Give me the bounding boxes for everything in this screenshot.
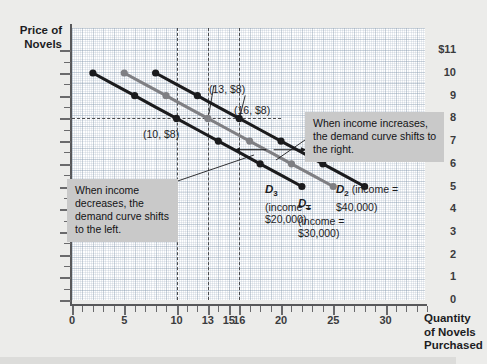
data-point bbox=[121, 69, 128, 76]
callout-income-decreases: When income decreases, the demand curve … bbox=[67, 179, 178, 242]
data-point bbox=[246, 138, 253, 145]
curve-label-d2-name: D2 bbox=[336, 183, 349, 195]
point-label-16-8: (16, $8) bbox=[234, 104, 270, 116]
data-point bbox=[204, 115, 211, 122]
data-point bbox=[173, 115, 180, 122]
callout-income-increases: When income increases, the demand curve … bbox=[305, 112, 444, 162]
curve-label-d3-name: D3 bbox=[265, 183, 278, 195]
data-point bbox=[194, 92, 201, 99]
point-label-13-8: (13, $8) bbox=[209, 83, 245, 95]
shift-right-arrow bbox=[274, 147, 306, 152]
curve-label-d1-note2: $30,000) bbox=[298, 227, 344, 240]
curve-label-d2: D2 (income = $40,000) bbox=[336, 183, 398, 213]
data-point bbox=[277, 138, 284, 145]
curve-label-d1-name: D1 bbox=[298, 197, 311, 209]
bottom-bar bbox=[0, 357, 456, 364]
curve-label-d2-note2: $40,000) bbox=[336, 201, 398, 214]
data-point bbox=[257, 160, 264, 167]
curve-label-d2-note1: (income = bbox=[352, 183, 398, 195]
curve-label-d1-note1: (income = bbox=[298, 215, 344, 228]
data-point bbox=[162, 92, 169, 99]
data-point bbox=[131, 92, 138, 99]
data-point bbox=[152, 69, 159, 76]
demand-curve-d3 bbox=[93, 73, 302, 187]
data-point bbox=[215, 138, 222, 145]
data-point bbox=[89, 69, 96, 76]
point-label-10-8: (10, $8) bbox=[143, 128, 179, 140]
data-point bbox=[288, 160, 295, 167]
